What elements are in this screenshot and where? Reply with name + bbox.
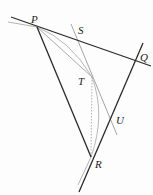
label-u: U	[116, 114, 125, 126]
dotted-line-t-r	[91, 77, 92, 157]
line-p-t	[37, 27, 92, 77]
label-t: T	[78, 75, 85, 87]
label-s: S	[78, 24, 84, 36]
curve-p-t-r	[37, 27, 99, 157]
label-p: P	[30, 13, 38, 25]
diagram-svg: P S Q T U R	[0, 0, 153, 195]
geometry-diagram: P S Q T U R	[0, 0, 153, 195]
label-q: Q	[140, 51, 148, 63]
segment-p-r	[37, 27, 91, 157]
label-r: R	[94, 158, 102, 170]
